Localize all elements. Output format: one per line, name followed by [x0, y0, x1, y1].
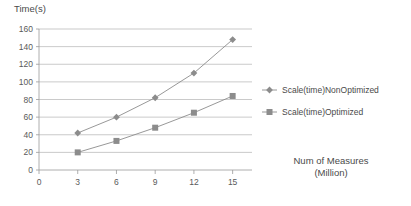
data-point-0-2 [152, 94, 159, 101]
legend-marker-0 [266, 87, 273, 94]
series-line-0 [78, 40, 233, 133]
x-tick-label: 15 [228, 177, 238, 187]
x-tick-label: 12 [189, 177, 199, 187]
x-tick-label: 9 [153, 177, 158, 187]
data-point-0-0 [74, 130, 81, 137]
data-point-1-3 [191, 110, 197, 116]
y-tick-label: 120 [19, 59, 33, 69]
chart-plot: 02040608010012014016003691215Scale(time)… [0, 0, 411, 206]
data-point-1-4 [230, 93, 236, 99]
series-line-1 [78, 96, 233, 152]
legend-marker-1 [267, 109, 273, 115]
y-tick-label: 60 [24, 112, 34, 122]
chart-container: Time(s) Num of Measures (Million) 020406… [0, 0, 411, 206]
x-tick-label: 6 [114, 177, 119, 187]
x-tick-label: 3 [75, 177, 80, 187]
y-tick-label: 80 [24, 95, 34, 105]
data-point-0-1 [113, 114, 120, 121]
y-tick-label: 0 [28, 165, 33, 175]
y-tick-label: 100 [19, 77, 33, 87]
data-point-1-2 [152, 125, 158, 131]
data-point-1-0 [75, 149, 81, 155]
data-point-1-1 [113, 138, 119, 144]
legend-label-0: Scale(time)NonOptimized [282, 85, 379, 95]
legend-label-1: Scale(time)Optimized [282, 107, 364, 117]
y-tick-label: 160 [19, 24, 33, 34]
y-tick-label: 40 [24, 130, 34, 140]
y-tick-label: 140 [19, 42, 33, 52]
x-tick-label: 0 [37, 177, 42, 187]
y-tick-label: 20 [24, 147, 34, 157]
